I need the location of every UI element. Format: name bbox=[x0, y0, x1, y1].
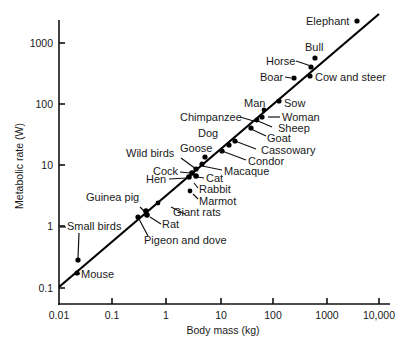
x-axis-title: Body mass (kg) bbox=[187, 324, 260, 336]
point-giant-rats bbox=[156, 201, 161, 206]
point-mouse bbox=[74, 270, 79, 275]
y-tick-10: 10 bbox=[41, 159, 53, 171]
fit-line bbox=[59, 14, 379, 287]
point-cat bbox=[193, 173, 199, 179]
label-boar: Boar bbox=[260, 71, 284, 83]
label-bull: Bull bbox=[305, 41, 323, 53]
point-condor bbox=[219, 148, 224, 153]
label-giant-rats: Giant rats bbox=[173, 206, 221, 218]
y-axis-title: Metabolic rate (W) bbox=[13, 123, 25, 209]
label-elephant: Elephant bbox=[306, 15, 349, 27]
point-rabbit-marmot bbox=[188, 189, 193, 194]
label-guinea-pig: Guinea pig bbox=[86, 191, 139, 203]
point-hen bbox=[186, 174, 192, 180]
x-tick-10000: 10,000 bbox=[363, 309, 395, 321]
point-wild-birds bbox=[193, 166, 198, 171]
x-tick-100: 100 bbox=[264, 309, 282, 321]
label-man: Man bbox=[244, 97, 265, 109]
point-cassowary bbox=[232, 138, 237, 143]
point-sow bbox=[276, 98, 281, 103]
point-horse bbox=[308, 64, 313, 69]
x-tick-10: 10 bbox=[215, 309, 227, 321]
label-goose: Goose bbox=[180, 142, 212, 154]
x-tick-0.1: 0.1 bbox=[105, 309, 120, 321]
point-woman bbox=[259, 114, 264, 119]
label-chimpanzee: Chimpanzee bbox=[180, 111, 242, 123]
point-cow bbox=[307, 73, 312, 78]
label-dog: Dog bbox=[198, 127, 218, 139]
point-elephant bbox=[354, 18, 359, 23]
point-boar bbox=[291, 75, 296, 80]
label-goat: Goat bbox=[267, 132, 291, 144]
point-goose bbox=[202, 154, 207, 159]
label-cow: Cow and steer bbox=[315, 71, 386, 83]
point-macaque bbox=[199, 161, 204, 166]
point-dog bbox=[226, 142, 231, 147]
y-tick-1: 1 bbox=[47, 220, 53, 232]
point-goat bbox=[248, 125, 253, 130]
x-tick-0.01: 0.01 bbox=[49, 309, 70, 321]
axes bbox=[58, 20, 390, 305]
x-tick-1: 1 bbox=[163, 309, 169, 321]
point-pigeon bbox=[135, 214, 140, 219]
label-hen: Hen bbox=[146, 173, 166, 185]
label-wild-birds: Wild birds bbox=[126, 147, 175, 159]
scatter-chart: 1000 100 10 1 0.1 0.01 0.1 1 10 100 1000… bbox=[0, 0, 412, 343]
point-small-birds bbox=[75, 257, 80, 262]
label-mouse: Mouse bbox=[81, 268, 114, 280]
label-rabbit: Rabbit bbox=[199, 183, 231, 195]
label-small-birds: Small birds bbox=[67, 220, 122, 232]
point-bull bbox=[312, 55, 317, 60]
label-horse: Horse bbox=[266, 55, 295, 67]
label-sow: Sow bbox=[284, 97, 305, 109]
label-pigeon: Pigeon and dove bbox=[144, 234, 227, 246]
label-macaque: Macaque bbox=[224, 165, 269, 177]
y-tick-0.1: 0.1 bbox=[38, 282, 53, 294]
y-tick-100: 100 bbox=[35, 98, 53, 110]
point-rat bbox=[144, 212, 150, 218]
label-rat: Rat bbox=[162, 218, 179, 230]
x-tick-1000: 1000 bbox=[315, 309, 339, 321]
y-tick-1000: 1000 bbox=[30, 37, 54, 49]
point-chimpanzee bbox=[255, 118, 260, 123]
